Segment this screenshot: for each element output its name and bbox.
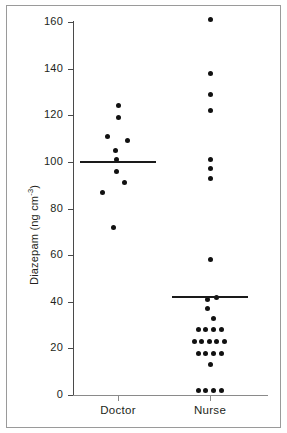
y-axis-tick — [68, 348, 73, 349]
y-axis-tick — [68, 209, 73, 210]
y-axis-tick — [68, 69, 73, 70]
mean-line-nurse — [172, 296, 248, 298]
data-point — [114, 169, 119, 174]
data-point — [214, 339, 219, 344]
data-point — [208, 71, 213, 76]
y-axis-tick-label: 160 — [25, 15, 63, 27]
data-point — [222, 339, 227, 344]
data-point — [208, 157, 213, 162]
data-point — [208, 92, 213, 97]
y-axis-tick-label: 100 — [25, 155, 63, 167]
data-point — [211, 316, 216, 321]
y-axis-tick — [68, 302, 73, 303]
data-point — [122, 180, 127, 185]
data-point — [111, 225, 116, 230]
y-axis-tick-label: 140 — [25, 62, 63, 74]
data-point — [192, 339, 197, 344]
data-point — [208, 176, 213, 181]
y-axis-title: Diazepam (ng cm-3) — [26, 185, 40, 285]
data-point — [219, 351, 224, 356]
y-axis-tick — [68, 395, 73, 396]
data-point — [125, 138, 130, 143]
data-point — [219, 327, 224, 332]
data-point — [211, 327, 216, 332]
y-axis-line — [73, 21, 74, 396]
y-axis-tick — [68, 22, 73, 23]
y-axis-tick-label: 0 — [25, 388, 63, 400]
y-axis-tick-label: 20 — [25, 341, 63, 353]
figure-container: 020406080100120140160Diazepam (ng cm-3)D… — [0, 0, 287, 433]
data-point — [208, 257, 213, 262]
x-axis-line — [73, 395, 268, 396]
dot-plot-canvas: 020406080100120140160Diazepam (ng cm-3)D… — [0, 0, 287, 433]
data-point — [113, 148, 118, 153]
data-point — [100, 190, 105, 195]
x-axis-tick — [118, 396, 119, 401]
data-point — [207, 339, 212, 344]
data-point — [203, 327, 208, 332]
data-point — [208, 166, 213, 171]
x-axis-category-label-doctor: Doctor — [73, 404, 163, 416]
data-point — [196, 327, 201, 332]
data-point — [208, 108, 213, 113]
y-axis-tick — [68, 255, 73, 256]
data-point — [208, 362, 213, 367]
data-point — [116, 103, 121, 108]
data-point — [211, 351, 216, 356]
mean-line-doctor — [80, 161, 156, 163]
data-point — [199, 339, 204, 344]
data-point — [116, 115, 121, 120]
data-point — [205, 306, 210, 311]
y-axis-tick — [68, 115, 73, 116]
x-axis-tick — [210, 396, 211, 401]
data-point — [203, 351, 208, 356]
data-point — [219, 388, 224, 393]
y-axis-tick — [68, 162, 73, 163]
x-axis-category-label-nurse: Nurse — [165, 404, 255, 416]
y-axis-tick-label: 120 — [25, 108, 63, 120]
data-point — [211, 388, 216, 393]
data-point — [203, 388, 208, 393]
data-point — [196, 351, 201, 356]
data-point — [196, 388, 201, 393]
y-axis-tick-label: 40 — [25, 295, 63, 307]
data-point — [105, 134, 110, 139]
data-point — [208, 17, 213, 22]
